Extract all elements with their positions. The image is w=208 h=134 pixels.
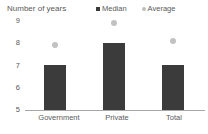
x-axis-line <box>25 110 205 111</box>
bar-median-total <box>162 65 184 110</box>
x-tick-private: Private <box>105 113 128 122</box>
chart-container: Number of years Median Average 9 8 7 6 5… <box>0 0 208 134</box>
y-tick-7: 7 <box>6 62 20 70</box>
bar-median-government <box>44 65 66 110</box>
legend-label-average: Average <box>148 4 176 13</box>
y-tick-5: 5 <box>6 106 20 114</box>
dot-average-total <box>170 38 176 44</box>
dot-average-private <box>111 20 117 26</box>
legend-label-median: Median <box>102 4 127 13</box>
y-axis-tick-labels: 9 8 7 6 5 <box>6 0 20 134</box>
legend-item-average[interactable]: Average <box>142 4 176 13</box>
dot-average-government <box>52 42 58 48</box>
y-tick-6: 6 <box>6 84 20 92</box>
y-tick-9: 9 <box>6 17 20 25</box>
legend-item-median[interactable]: Median <box>96 4 127 13</box>
plot-area <box>25 20 203 110</box>
bar-median-private <box>103 43 125 111</box>
x-tick-government: Government <box>38 113 79 122</box>
y-tick-8: 8 <box>6 39 20 47</box>
legend-square-icon <box>96 7 100 11</box>
chart-legend: Median Average <box>96 4 175 13</box>
x-tick-total: Total <box>166 113 182 122</box>
legend-circle-icon <box>142 7 146 11</box>
